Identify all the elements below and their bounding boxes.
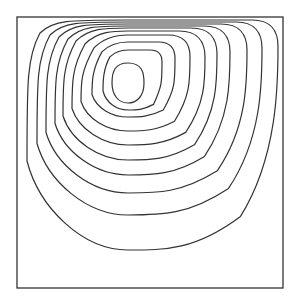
contour-canvas xyxy=(0,0,301,306)
contour-line xyxy=(92,42,175,117)
contour-plot xyxy=(0,0,301,306)
contour-line xyxy=(63,28,217,160)
contour-line xyxy=(27,20,278,250)
streamline-contours xyxy=(27,20,278,250)
plot-frame xyxy=(17,17,283,288)
contour-line xyxy=(112,63,144,103)
